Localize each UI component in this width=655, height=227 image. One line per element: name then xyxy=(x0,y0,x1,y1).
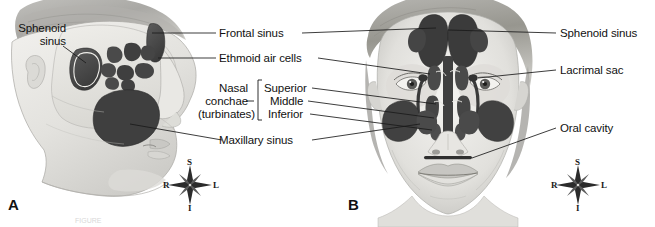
label-nasal-conchae-line3: (turbinates) xyxy=(198,108,248,121)
compass-a-right: R xyxy=(163,180,170,190)
label-superior-concha: Superior xyxy=(264,82,307,95)
label-sphenoid-sinus-a-line2: sinus xyxy=(4,35,66,48)
compass-b-superior: S xyxy=(575,157,580,167)
label-sphenoid-sinus-a: Sphenoid sinus xyxy=(4,22,66,48)
label-middle-concha: Middle xyxy=(270,95,303,108)
anatomical-figure-paranasal-sinuses: Sphenoid sinus Frontal sinus Ethmoid air… xyxy=(0,0,655,227)
figure-caption: FIGURE xyxy=(75,217,101,224)
illustration-layer xyxy=(0,0,655,227)
compass-b-inferior: I xyxy=(576,203,580,213)
label-inferior-concha: Inferior xyxy=(268,108,303,121)
label-nasal-conchae: Nasal conchae (turbinates) xyxy=(198,82,248,121)
compass-a-superior: S xyxy=(187,157,192,167)
label-lacrimal-sac: Lacrimal sac xyxy=(560,64,623,77)
panel-letter-b: B xyxy=(348,196,359,213)
panel-letter-a: A xyxy=(8,196,19,213)
compass-b-right: R xyxy=(551,180,558,190)
label-nasal-conchae-line1: Nasal xyxy=(198,82,248,95)
label-ethmoid-air-cells: Ethmoid air cells xyxy=(219,52,302,65)
oral-cavity-shape xyxy=(424,156,472,159)
panel-b-illustration xyxy=(365,0,532,227)
label-frontal-sinus: Frontal sinus xyxy=(219,27,284,40)
label-sphenoid-sinus-b: Sphenoid sinus xyxy=(560,27,637,40)
label-nasal-conchae-line2: conchae xyxy=(198,95,248,108)
label-maxillary-sinus: Maxillary sinus xyxy=(219,134,293,147)
compass-a-left: L xyxy=(213,180,219,190)
label-sphenoid-sinus-a-line1: Sphenoid xyxy=(4,22,66,35)
compass-rose-b xyxy=(556,165,600,205)
compass-b-left: L xyxy=(601,180,607,190)
compass-rose-a xyxy=(168,165,212,205)
compass-a-inferior: I xyxy=(188,203,192,213)
conchae-bracket-left xyxy=(258,80,262,120)
label-oral-cavity: Oral cavity xyxy=(560,122,613,135)
